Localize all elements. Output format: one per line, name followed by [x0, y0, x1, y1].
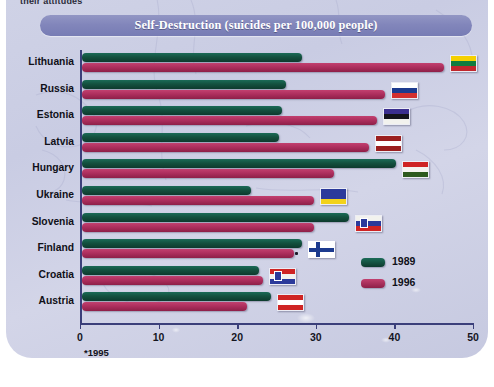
x-tick-label-50: 50	[467, 331, 479, 343]
x-axis-line	[80, 323, 473, 325]
flag-icon-latvia	[375, 135, 402, 152]
category-label-lithuania: Lithuania	[6, 56, 74, 67]
chart-title-pill: Self-Destruction (suicides per 100,000 p…	[40, 15, 472, 36]
bar-row: Slovenia	[80, 212, 480, 236]
flag-icon-croatia	[269, 268, 296, 285]
x-tick-10	[159, 323, 160, 329]
x-tick-label-10: 10	[153, 331, 165, 343]
flag-icon-slovenia	[355, 215, 382, 232]
category-label-ukraine: Ukraine	[6, 189, 74, 200]
bar-1989-slovenia	[82, 213, 349, 222]
x-tick-20	[237, 323, 238, 329]
category-label-estonia: Estonia	[6, 109, 74, 120]
bar-1989-ukraine	[82, 186, 251, 195]
bar-1989-russia	[82, 80, 286, 89]
bar-1989-estonia	[82, 106, 282, 115]
legend-label-1996: 1996	[392, 276, 415, 288]
page-top-partial-text: their attitudes	[20, 0, 220, 8]
bar-1996-russia	[82, 90, 385, 99]
bar-1996-latvia	[82, 143, 369, 152]
chart-page: their attitudes Self-Destruction (suicid…	[0, 0, 494, 387]
bar-row: Russia	[80, 79, 480, 103]
bar-1996-hungary	[82, 169, 334, 178]
bar-1996-croatia	[82, 276, 263, 285]
legend-item-1989: 1989	[361, 255, 461, 271]
footnote-marker-finland	[295, 252, 298, 255]
category-label-russia: Russia	[6, 83, 74, 94]
chart-panel: their attitudes Self-Destruction (suicid…	[6, 0, 488, 358]
flag-icon-russia	[391, 82, 418, 99]
flag-icon-lithuania	[450, 55, 477, 72]
legend-swatch-1996	[361, 279, 385, 288]
bar-1996-ukraine	[82, 196, 314, 205]
x-tick-label-0: 0	[77, 331, 83, 343]
x-tick-30	[316, 323, 317, 329]
bar-row: Ukraine	[80, 185, 480, 209]
bar-1996-estonia	[82, 116, 377, 125]
chart-footnote: *1995	[84, 347, 109, 358]
bar-1989-croatia	[82, 266, 259, 275]
category-label-croatia: Croatia	[6, 269, 74, 280]
legend-item-1996: 1996	[361, 276, 461, 292]
flag-icon-hungary	[402, 161, 429, 178]
flag-icon-austria	[277, 294, 304, 311]
chart-legend: 1989 1996	[361, 255, 461, 297]
legend-label-1989: 1989	[392, 255, 415, 267]
bar-row: Hungary	[80, 158, 480, 182]
bar-1989-hungary	[82, 159, 396, 168]
bar-1996-slovenia	[82, 223, 314, 232]
bar-1989-finland	[82, 239, 302, 248]
category-label-latvia: Latvia	[6, 136, 74, 147]
x-tick-50	[473, 323, 474, 329]
bar-1989-latvia	[82, 133, 279, 142]
category-label-austria: Austria	[6, 295, 74, 306]
x-tick-label-30: 30	[310, 331, 322, 343]
category-label-finland: Finland	[6, 242, 74, 253]
bar-row: Lithuania	[80, 52, 480, 76]
x-tick-label-40: 40	[389, 331, 401, 343]
legend-swatch-1989	[361, 258, 385, 267]
x-tick-0	[80, 323, 81, 329]
bar-1989-lithuania	[82, 53, 302, 62]
category-label-slovenia: Slovenia	[6, 216, 74, 227]
flag-icon-finland	[308, 241, 335, 258]
bar-1989-austria	[82, 292, 271, 301]
flag-icon-ukraine	[320, 188, 347, 205]
bar-1996-lithuania	[82, 63, 444, 72]
flag-icon-estonia	[383, 108, 410, 125]
category-label-hungary: Hungary	[6, 162, 74, 173]
bar-row: Latvia	[80, 132, 480, 156]
x-tick-label-20: 20	[231, 331, 243, 343]
bar-row: Estonia	[80, 105, 480, 129]
chart-title: Self-Destruction (suicides per 100,000 p…	[40, 15, 472, 36]
bar-1996-austria	[82, 302, 247, 311]
bar-1996-finland	[82, 249, 294, 258]
x-tick-40	[394, 323, 395, 329]
